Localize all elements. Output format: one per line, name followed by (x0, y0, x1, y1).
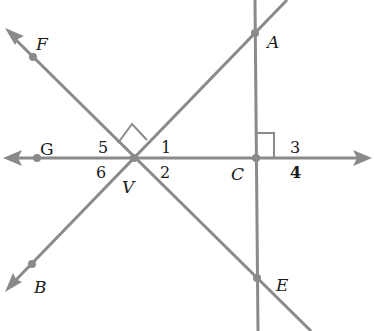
point-v (130, 154, 138, 162)
point-f (29, 53, 37, 61)
point-a (251, 29, 259, 37)
angle-label-1: 1 (161, 138, 171, 157)
label-v: V (122, 177, 136, 197)
point-b (28, 260, 36, 268)
angle-label-3: 3 (290, 138, 300, 157)
label-g: G (40, 139, 54, 159)
right-angle-mark-v (118, 124, 147, 143)
angle-label-6: 6 (96, 163, 106, 182)
angle-label-4: 4 (290, 163, 301, 182)
geometry-diagram: F A G V C B E 1 2 3 4 5 6 (0, 0, 374, 331)
label-a: A (265, 32, 279, 52)
label-c: C (231, 164, 244, 184)
angle-label-2: 2 (160, 163, 170, 182)
arrow-upleft-icon (5, 28, 24, 45)
label-f: F (35, 34, 49, 54)
line-fve (5, 28, 311, 331)
point-e (253, 274, 261, 282)
angle-label-5: 5 (98, 138, 108, 157)
label-b: B (33, 277, 47, 297)
line-horizontal-gc (3, 150, 372, 166)
right-angle-mark-c (256, 133, 274, 158)
point-c (252, 154, 260, 162)
label-e: E (275, 275, 289, 295)
